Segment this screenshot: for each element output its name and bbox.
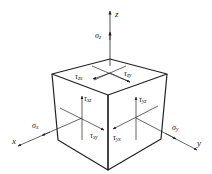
sigma-y-label: σy [172, 124, 178, 133]
sigma-x-label: σx [32, 122, 38, 131]
tau-xz-label: τxz [84, 95, 91, 104]
cube-left-face [52, 74, 108, 170]
tau-yz-label: τyz [139, 96, 146, 105]
y-axis-label: y [197, 139, 201, 148]
stress-cube-diagram [0, 0, 212, 174]
cube-right-face [108, 74, 167, 170]
sigma-z-label: σz [95, 32, 101, 41]
tau-xy-label: τxy [90, 132, 98, 141]
tau-zy-label: τzy [124, 70, 131, 79]
cube-top-face [52, 59, 167, 95]
tau-yx-label: τyx [113, 134, 121, 143]
z-axis-label: z [115, 10, 119, 19]
tau-zx-label: τzx [75, 73, 82, 82]
x-axis-label: x [12, 137, 16, 146]
cube [52, 59, 167, 170]
